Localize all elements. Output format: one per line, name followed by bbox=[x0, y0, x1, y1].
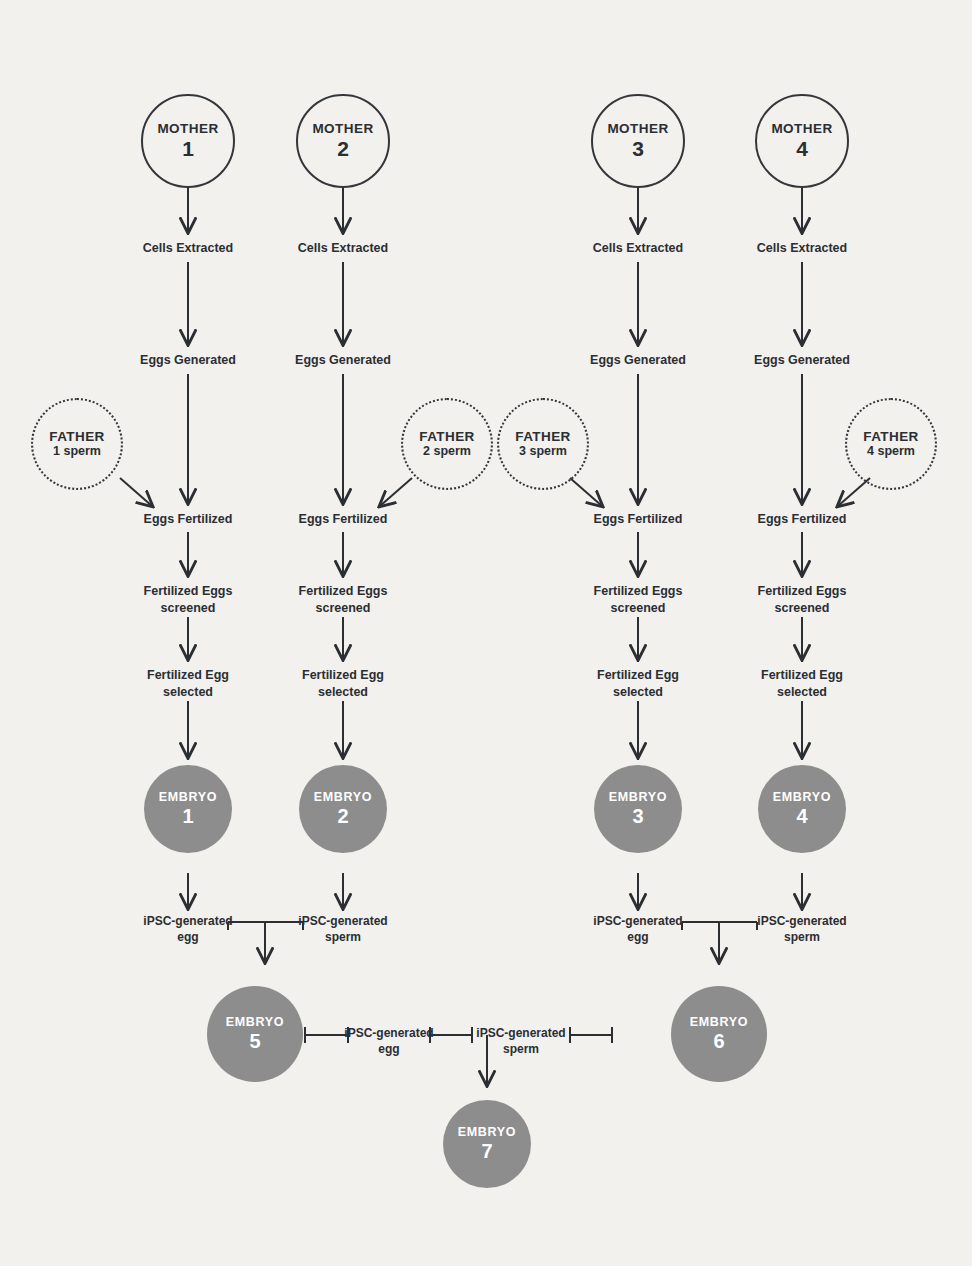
embryo-number: 4 bbox=[796, 805, 807, 827]
step-eggs-generated-1: Eggs Generated bbox=[140, 352, 236, 369]
embryo-node-7[interactable]: EMBRYO 7 bbox=[443, 1100, 531, 1188]
gamete-label-sperm-left: iPSC-generated sperm bbox=[298, 914, 387, 946]
column-arrows bbox=[188, 188, 802, 908]
father-node-2[interactable]: FATHER 2 sperm bbox=[401, 398, 493, 490]
father-node-3[interactable]: FATHER 3 sperm bbox=[497, 398, 589, 490]
father-sperm-label: 2 sperm bbox=[423, 445, 471, 459]
father-label: FATHER bbox=[863, 430, 918, 444]
step-eggs-fertilized-1: Eggs Fertilized bbox=[144, 511, 233, 528]
mother-label: MOTHER bbox=[312, 122, 373, 136]
mother-node-3[interactable]: MOTHER 3 bbox=[591, 94, 685, 188]
step-egg-selected-3: Fertilized Egg selected bbox=[597, 667, 679, 700]
father-sperm-label: 1 sperm bbox=[53, 445, 101, 459]
embryo-node-4[interactable]: EMBRYO 4 bbox=[758, 765, 846, 853]
mother-number: 2 bbox=[337, 137, 349, 160]
step-cells-extracted-2: Cells Extracted bbox=[298, 240, 388, 257]
step-eggs-screened-4: Fertilized Eggs screened bbox=[758, 583, 847, 616]
embryo-label: EMBRYO bbox=[458, 1126, 517, 1139]
father-node-1[interactable]: FATHER 1 sperm bbox=[31, 398, 123, 490]
mother-node-2[interactable]: MOTHER 2 bbox=[296, 94, 390, 188]
step-eggs-generated-4: Eggs Generated bbox=[754, 352, 850, 369]
father-sperm-label: 3 sperm bbox=[519, 445, 567, 459]
gamete-label-egg-bottom: iPSC-generated egg bbox=[344, 1026, 433, 1058]
gamete-label-sperm-bottom: iPSC-generated sperm bbox=[476, 1026, 565, 1058]
gamete-label-egg-left: iPSC-generated egg bbox=[143, 914, 232, 946]
embryo-node-1[interactable]: EMBRYO 1 bbox=[144, 765, 232, 853]
embryo-number: 7 bbox=[481, 1140, 492, 1162]
embryo-label: EMBRYO bbox=[159, 791, 218, 804]
step-egg-selected-4: Fertilized Egg selected bbox=[761, 667, 843, 700]
mother-number: 4 bbox=[796, 137, 808, 160]
mother-label: MOTHER bbox=[771, 122, 832, 136]
embryo-number: 3 bbox=[632, 805, 643, 827]
step-cells-extracted-1: Cells Extracted bbox=[143, 240, 233, 257]
embryo-label: EMBRYO bbox=[314, 791, 373, 804]
step-eggs-screened-3: Fertilized Eggs screened bbox=[594, 583, 683, 616]
father-arrows bbox=[120, 478, 870, 506]
father-sperm-label: 4 sperm bbox=[867, 445, 915, 459]
embryo-label: EMBRYO bbox=[226, 1016, 285, 1029]
step-eggs-generated-2: Eggs Generated bbox=[295, 352, 391, 369]
embryo-label: EMBRYO bbox=[773, 791, 832, 804]
father-node-4[interactable]: FATHER 4 sperm bbox=[845, 398, 937, 490]
join-embryo-5 bbox=[228, 922, 303, 962]
mother-number: 1 bbox=[182, 137, 194, 160]
embryo-number: 2 bbox=[337, 805, 348, 827]
embryo-node-5[interactable]: EMBRYO 5 bbox=[207, 986, 303, 1082]
embryo-node-3[interactable]: EMBRYO 3 bbox=[594, 765, 682, 853]
mother-node-1[interactable]: MOTHER 1 bbox=[141, 94, 235, 188]
embryo-number: 1 bbox=[182, 805, 193, 827]
mother-label: MOTHER bbox=[157, 122, 218, 136]
mother-label: MOTHER bbox=[607, 122, 668, 136]
step-eggs-fertilized-4: Eggs Fertilized bbox=[758, 511, 847, 528]
mother-number: 3 bbox=[632, 137, 644, 160]
step-cells-extracted-3: Cells Extracted bbox=[593, 240, 683, 257]
step-egg-selected-1: Fertilized Egg selected bbox=[147, 667, 229, 700]
step-eggs-fertilized-3: Eggs Fertilized bbox=[594, 511, 683, 528]
embryo-label: EMBRYO bbox=[690, 1016, 749, 1029]
embryo-number: 5 bbox=[249, 1030, 260, 1052]
gamete-label-sperm-right: iPSC-generated sperm bbox=[757, 914, 846, 946]
father-label: FATHER bbox=[419, 430, 474, 444]
father-label: FATHER bbox=[515, 430, 570, 444]
step-eggs-screened-1: Fertilized Eggs screened bbox=[144, 583, 233, 616]
step-eggs-screened-2: Fertilized Eggs screened bbox=[299, 583, 388, 616]
connector-layer bbox=[0, 0, 972, 1266]
embryo-node-2[interactable]: EMBRYO 2 bbox=[299, 765, 387, 853]
gamete-label-egg-right: iPSC-generated egg bbox=[593, 914, 682, 946]
embryo-number: 6 bbox=[713, 1030, 724, 1052]
step-eggs-fertilized-2: Eggs Fertilized bbox=[299, 511, 388, 528]
join-embryo-6 bbox=[682, 922, 757, 962]
step-eggs-generated-3: Eggs Generated bbox=[590, 352, 686, 369]
embryo-label: EMBRYO bbox=[609, 791, 668, 804]
embryo-node-6[interactable]: EMBRYO 6 bbox=[671, 986, 767, 1082]
flowchart-canvas: MOTHER 1 MOTHER 2 MOTHER 3 MOTHER 4 FATH… bbox=[0, 0, 972, 1266]
father-label: FATHER bbox=[49, 430, 104, 444]
step-egg-selected-2: Fertilized Egg selected bbox=[302, 667, 384, 700]
step-cells-extracted-4: Cells Extracted bbox=[757, 240, 847, 257]
mother-node-4[interactable]: MOTHER 4 bbox=[755, 94, 849, 188]
